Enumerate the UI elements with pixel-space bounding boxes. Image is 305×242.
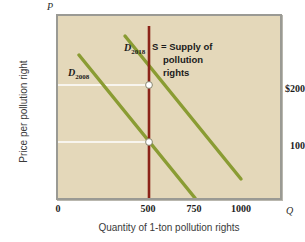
supply-label-line-3: rights [152,66,212,79]
x-tick-label-750: 750 [171,203,217,214]
supply-label: S = Supply of pollution rights [152,40,212,79]
x-axis-title: Quantity of 1-ton pollution rights [56,222,282,233]
demand-2008-label: D2008 [68,67,89,81]
supply-label-line-2: pollution [152,53,212,66]
plot-area: D2018 D2008 S = Supply of pollution righ… [56,14,282,200]
x-tick-label-500: 500 [125,203,171,214]
plot-inner: D2018 D2008 S = Supply of pollution righ… [58,16,280,198]
equilibrium-marker-2008 [146,139,153,146]
x-tick-label-0: 0 [35,203,81,214]
pollution-rights-chart-figure: P Q Price per pollution right Quantity o… [0,0,305,242]
demand-2018-label: D2018 [124,42,145,56]
y-axis-symbol: P [47,1,53,12]
supply-label-line-1: S = Supply of [152,40,212,53]
equilibrium-marker-2018 [146,82,153,89]
x-axis-symbol: Q [286,205,293,216]
x-tick-label-1000: 1000 [218,203,264,214]
demand-2008-label-subscript: 2008 [75,73,89,81]
demand-2018-label-subscript: 2018 [131,48,145,56]
y-axis-title: Price per pollution right [18,37,29,187]
